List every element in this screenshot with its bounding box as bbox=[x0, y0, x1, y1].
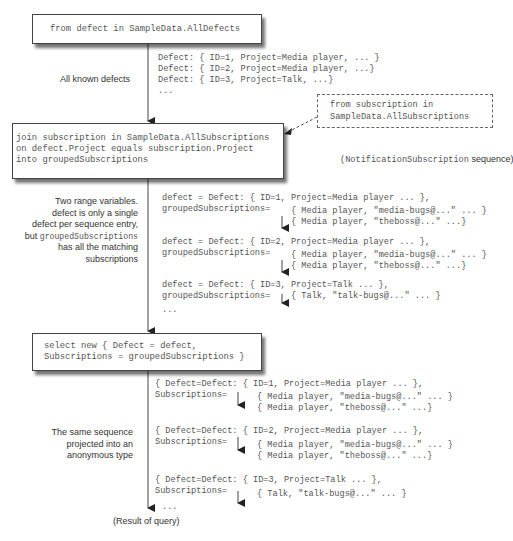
select-clause-line-1: select new { Defect = defect, bbox=[44, 341, 245, 352]
range-variables-note: Two range variables. defect is only a si… bbox=[0, 196, 138, 265]
subscription-item: { Media player, "theboss@..." ...} bbox=[291, 217, 487, 228]
join-clause-line-2: on defect.Project equals subscription.Pr… bbox=[16, 144, 269, 155]
defects-sequence: Defect: { ID=1, Project=Media player, ..… bbox=[158, 53, 380, 97]
caption-code: (NotificationSubscription bbox=[340, 155, 469, 165]
sequence-item: Defect: { ID=1, Project=Media player, ..… bbox=[158, 53, 380, 64]
subscriptions-source-box: from subscription in SampleData.AllSubsc… bbox=[317, 94, 493, 128]
subscription-item: { Media player, "theboss@..." ...} bbox=[257, 451, 453, 462]
subscription-item: { Talk, "talk-bugs@..." ... } bbox=[257, 489, 407, 500]
subscription-item: { Media player, "media-bugs@..." ... } bbox=[257, 440, 453, 451]
sequence-ellipsis: ... bbox=[162, 502, 177, 513]
subscriptions-source-caption: (NotificationSubscription sequence) bbox=[340, 148, 513, 166]
sequence-ellipsis: ... bbox=[162, 305, 177, 316]
sequence-item: Defect: { ID=2, Project=Media player, ..… bbox=[158, 64, 380, 75]
subscription-item: { Media player, "media-bugs@..." ... } bbox=[291, 206, 487, 217]
sequence-item: Defect: { ID=3, Project=Talk, ...} bbox=[158, 75, 380, 86]
select-clause-box: select new { Defect = defect, Subscripti… bbox=[32, 333, 262, 371]
subscription-item: { Talk, "talk-bugs@..." ... } bbox=[291, 291, 441, 302]
result-label: (Result of query) bbox=[113, 516, 180, 528]
dashed-connector bbox=[290, 117, 317, 131]
join-clause-line-1: join subscription in SampleData.AllSubsc… bbox=[16, 133, 269, 144]
select-clause-line-2: Subscriptions = groupedSubscriptions } bbox=[44, 352, 245, 363]
subscription-item: { Media player, "media-bugs@..." ... } bbox=[257, 392, 453, 403]
join-clause-box: join subscription in SampleData.AllSubsc… bbox=[12, 123, 284, 179]
projected-note: The same sequence projected into an anon… bbox=[0, 427, 133, 462]
caption-text: sequence) bbox=[469, 154, 513, 164]
subscription-item: { Media player, "theboss@..." ...} bbox=[291, 261, 487, 272]
join-clause-line-3: into groupedSubscriptions bbox=[16, 155, 269, 166]
subscriptions-source-line-2: SampleData.AllSubscriptions bbox=[330, 112, 469, 123]
from-clause-box: from defect in SampleData.AllDefects bbox=[32, 14, 262, 44]
subscription-item: { Media player, "theboss@..." ...} bbox=[257, 403, 453, 414]
subscriptions-source-line-1: from subscription in bbox=[330, 100, 433, 111]
subscription-item: { Media player, "media-bugs@..." ... } bbox=[291, 250, 487, 261]
from-clause-code: from defect in SampleData.AllDefects bbox=[50, 24, 240, 35]
all-defects-label: All known defects bbox=[60, 74, 130, 86]
